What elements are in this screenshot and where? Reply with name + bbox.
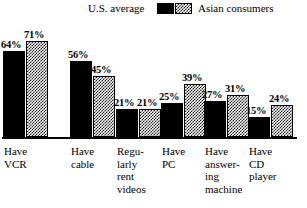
bar-value-label: 27% bbox=[202, 89, 222, 100]
bar-value-label: 25% bbox=[159, 91, 179, 102]
bar bbox=[116, 109, 138, 137]
bar bbox=[70, 61, 92, 137]
bar bbox=[3, 51, 25, 137]
bar bbox=[93, 76, 115, 137]
bar-value-label: 24% bbox=[269, 93, 289, 104]
bar bbox=[204, 101, 226, 137]
x-axis-line bbox=[2, 137, 297, 139]
bar-chart: U.S. average Asian consumers 64%71%56%45… bbox=[0, 0, 307, 208]
bar bbox=[227, 95, 249, 137]
category-label: Have VCR bbox=[4, 145, 27, 170]
category-axis-labels: Have VCRHave cableRegu- larly rent video… bbox=[0, 145, 307, 207]
bar bbox=[248, 117, 270, 137]
category-label: Have CD player bbox=[249, 145, 276, 183]
bar-value-label: 21% bbox=[137, 97, 157, 108]
bar bbox=[26, 41, 48, 137]
bar bbox=[161, 103, 183, 137]
plot-area: 64%71%56%45%21%21%25%39%27%31%15%24% bbox=[0, 0, 307, 140]
bar-value-label: 39% bbox=[182, 72, 202, 83]
category-label: Have answer- ing machine bbox=[205, 145, 242, 195]
bar-value-label: 31% bbox=[225, 83, 245, 94]
bar bbox=[139, 109, 161, 137]
category-label: Regu- larly rent videos bbox=[117, 145, 146, 195]
category-label: Have PC bbox=[162, 145, 185, 170]
category-label: Have cable bbox=[71, 145, 94, 170]
bar-value-label: 15% bbox=[246, 105, 266, 116]
bar-value-label: 56% bbox=[68, 49, 88, 60]
bar-value-label: 21% bbox=[114, 97, 134, 108]
bar-value-label: 71% bbox=[24, 29, 44, 40]
bar-value-label: 64% bbox=[1, 39, 21, 50]
bar bbox=[271, 105, 293, 137]
bar-value-label: 45% bbox=[91, 64, 111, 75]
